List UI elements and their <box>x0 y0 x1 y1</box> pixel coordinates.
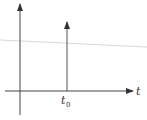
impulse-diagram: t t 0 <box>0 0 147 120</box>
guide-line <box>0 40 147 47</box>
axis-label-t: t <box>136 85 141 98</box>
impulse-label-subscript: 0 <box>66 101 70 109</box>
